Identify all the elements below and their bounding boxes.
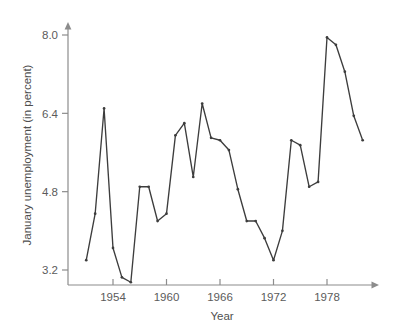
data-point [147, 185, 150, 188]
x-axis-title: Year [210, 310, 233, 322]
x-tick-label: 1966 [207, 291, 233, 303]
data-point [219, 139, 222, 142]
data-point [156, 220, 159, 223]
data-point [121, 276, 124, 279]
data-point [85, 259, 88, 262]
x-tick-label: 1954 [100, 291, 126, 303]
data-point [210, 136, 213, 139]
data-point [201, 102, 204, 105]
y-tick-label: 3.2 [42, 264, 58, 276]
data-point [290, 139, 293, 142]
data-point [352, 114, 355, 117]
data-point [308, 185, 311, 188]
y-tick-label: 4.8 [42, 186, 58, 198]
data-point [263, 237, 266, 240]
data-point [129, 281, 132, 284]
y-axis-title: January unemployment (in percent) [21, 64, 33, 245]
data-point [174, 134, 177, 137]
data-point [326, 36, 329, 39]
data-point [103, 107, 106, 110]
data-point [272, 259, 275, 262]
data-point [228, 149, 231, 152]
data-point [138, 185, 141, 188]
data-point [112, 247, 115, 250]
data-point [236, 188, 239, 191]
data-point [183, 122, 186, 125]
data-point [192, 176, 195, 179]
data-point [317, 181, 320, 184]
data-point [94, 212, 97, 215]
data-point [335, 43, 338, 46]
y-tick-label: 8.0 [42, 29, 58, 41]
series-line [86, 37, 362, 282]
x-tick-label: 1960 [154, 291, 180, 303]
data-series-line [86, 37, 362, 282]
data-point [299, 144, 302, 147]
data-point [254, 220, 257, 223]
data-point [165, 212, 168, 215]
tick-marks [62, 35, 327, 285]
data-point [245, 220, 248, 223]
y-tick-label: 6.4 [42, 108, 59, 120]
data-point [281, 229, 284, 232]
data-point [343, 70, 346, 73]
x-tick-label: 1978 [314, 291, 340, 303]
data-point-markers [85, 36, 364, 283]
chart-figure: 3.24.86.48.019541960196619721978 Year Ja… [0, 0, 395, 331]
line-chart-canvas: 3.24.86.48.019541960196619721978 Year Ja… [0, 0, 395, 331]
data-point [361, 139, 364, 142]
x-tick-label: 1972 [261, 291, 287, 303]
